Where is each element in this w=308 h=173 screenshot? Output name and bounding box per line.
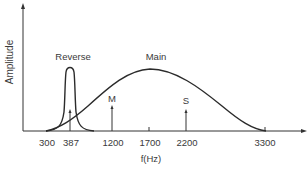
- s-label: S: [183, 95, 189, 106]
- chart-canvas: Amplitude Reverse Main M S 300 387 1200 …: [0, 0, 308, 173]
- tick-label-2200: 2200: [176, 137, 197, 148]
- arrow-m-icon: [111, 105, 114, 109]
- tick-label-387: 387: [63, 137, 79, 148]
- arrow-387-icon: [69, 109, 72, 113]
- tick-label-1200: 1200: [102, 137, 123, 148]
- y-axis-arrow-icon: [21, 3, 25, 9]
- y-axis-label: Amplitude: [4, 39, 15, 84]
- tick-label-3300: 3300: [254, 137, 275, 148]
- tick-label-1700: 1700: [139, 137, 160, 148]
- tick-label-300: 300: [39, 137, 55, 148]
- reverse-label: Reverse: [55, 51, 90, 62]
- arrow-s-icon: [185, 109, 188, 113]
- main-label: Main: [146, 51, 167, 62]
- m-label: M: [108, 93, 116, 104]
- x-axis-arrow-icon: [301, 129, 307, 133]
- x-axis-label: f(Hz): [141, 153, 162, 164]
